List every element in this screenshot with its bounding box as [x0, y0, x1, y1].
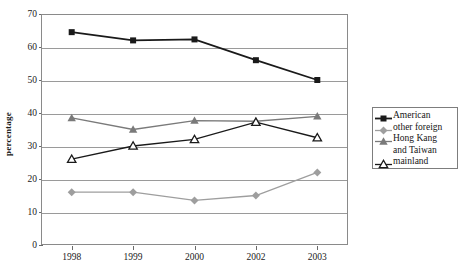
data-point: [129, 188, 137, 196]
x-axis-tick-labels: 19981999200020022003: [41, 246, 348, 268]
x-tick-mark: [133, 246, 134, 250]
x-tick-label: 1999: [106, 252, 160, 262]
legend-marker-icon: [375, 156, 392, 167]
chart-legend: Americanother foreignHong Kangand Taiwan…: [372, 107, 458, 169]
x-tick-label: 2000: [168, 252, 222, 262]
y-axis-tick-labels: 010203040506070: [3, 14, 37, 245]
data-point: [252, 192, 260, 200]
y-tick-label: 60: [7, 42, 37, 52]
data-point: [68, 188, 76, 196]
series-line: [68, 168, 322, 204]
legend-item[interactable]: mainland: [375, 156, 457, 168]
y-tick-label: 30: [7, 141, 37, 151]
legend-marker-icon: [375, 110, 392, 121]
legend-marker-icon: [375, 133, 392, 144]
series-layer: [41, 14, 348, 245]
data-point: [314, 77, 320, 83]
x-tick-mark: [317, 246, 318, 250]
y-tick-label: 10: [7, 207, 37, 217]
x-tick-mark: [195, 246, 196, 250]
legend-item-label: other foreign: [392, 122, 442, 134]
legend-item[interactable]: American: [375, 110, 457, 122]
x-tick-label: 2003: [290, 252, 344, 262]
y-tick-label: 0: [7, 240, 37, 250]
legend-item-continuation: and Taiwan: [375, 145, 457, 157]
chart-container: percentage 010203040506070 1998199920002…: [0, 0, 459, 276]
y-tick-label: 40: [7, 108, 37, 118]
x-tick-label: 1998: [45, 252, 99, 262]
data-point: [69, 29, 75, 35]
data-point: [191, 196, 199, 204]
series-line: [69, 29, 321, 83]
data-point: [313, 112, 321, 119]
legend-item-label: American: [392, 110, 430, 122]
y-tick-label: 50: [7, 75, 37, 85]
data-point: [253, 57, 259, 63]
x-tick-mark: [72, 246, 73, 250]
legend-item-label: and Taiwan: [375, 145, 437, 157]
legend-item-label: mainland: [392, 156, 428, 168]
legend-item[interactable]: other foreign: [375, 122, 457, 134]
data-point: [130, 37, 136, 43]
legend-marker-icon: [375, 122, 392, 133]
data-point: [192, 36, 198, 42]
legend-item[interactable]: Hong Kang: [375, 133, 457, 145]
y-tick-label: 70: [7, 9, 37, 19]
y-tick-label: 20: [7, 174, 37, 184]
data-point: [68, 114, 76, 121]
x-tick-mark: [256, 246, 257, 250]
legend-item-label: Hong Kang: [392, 133, 437, 145]
data-point: [313, 168, 321, 176]
x-tick-label: 2002: [229, 252, 283, 262]
